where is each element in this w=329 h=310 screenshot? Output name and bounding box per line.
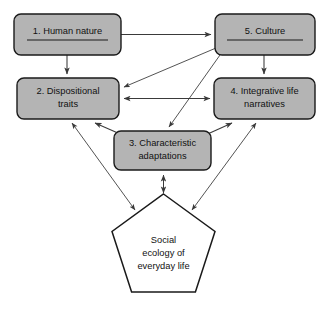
node-culture-label-line-1: 5. Culture — [245, 26, 285, 36]
edge-layer — [67, 35, 264, 211]
node-social-ecology-label-line-2: ecology of — [142, 248, 185, 258]
diagram-canvas: 1. Human nature 5. Culture 2. Dispositio… — [0, 0, 329, 310]
node-characteristic-adaptations-label-line-2: adaptations — [138, 151, 186, 161]
node-human-nature-label-line-1: 1. Human nature — [33, 26, 102, 36]
edge-culture-to-characteristic-adaptations — [169, 55, 220, 127]
node-social-ecology[interactable]: Social ecology of everyday life — [112, 194, 215, 292]
node-social-ecology-label-line-1: Social — [151, 235, 176, 245]
personality-model-diagram: 1. Human nature 5. Culture 2. Dispositio… — [0, 0, 329, 310]
node-characteristic-adaptations[interactable]: 3. Characteristic adaptations — [114, 131, 211, 170]
node-integrative-life-narratives-label-line-2: narratives — [244, 99, 285, 109]
node-integrative-life-narratives-label-line-1: 4. Integrative life — [230, 86, 298, 96]
node-dispositional-traits-label-line-1: 2. Dispositional — [36, 86, 99, 96]
node-integrative-life-narratives[interactable]: 4. Integrative life narratives — [214, 78, 315, 119]
node-dispositional-traits[interactable]: 2. Dispositional traits — [17, 78, 119, 119]
edge-culture-to-dispositional-traits — [124, 48, 216, 87]
node-dispositional-traits-label-line-2: traits — [58, 99, 78, 109]
node-characteristic-adaptations-label-line-1: 3. Characteristic — [129, 138, 197, 148]
node-human-nature[interactable]: 1. Human nature — [14, 14, 121, 55]
node-social-ecology-label-line-3: everyday life — [137, 261, 189, 271]
node-culture[interactable]: 5. Culture — [215, 14, 315, 55]
